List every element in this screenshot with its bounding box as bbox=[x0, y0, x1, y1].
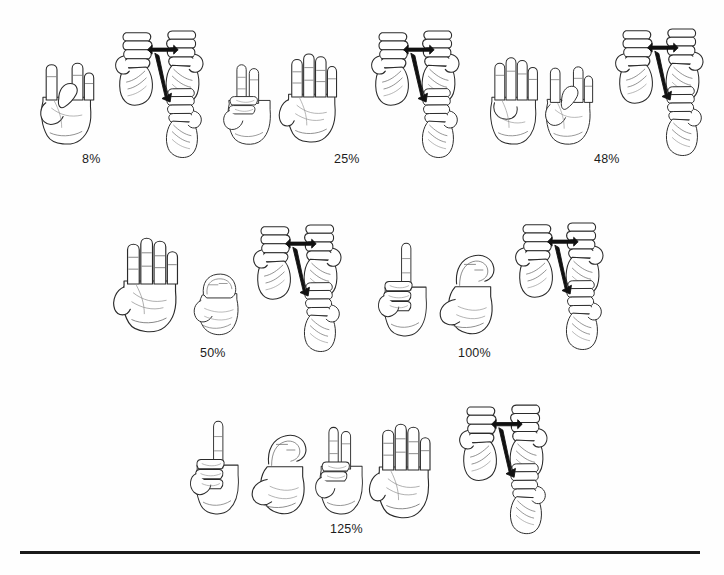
handshape-5 bbox=[366, 418, 440, 522]
illustration-page: 8%25%48%50%100%125% bbox=[0, 0, 724, 575]
page-bottom-rule bbox=[20, 551, 700, 554]
row-3: 125% bbox=[0, 0, 724, 575]
percent-sign-motion bbox=[452, 392, 560, 526]
caption-group-125-percent: 125% bbox=[330, 522, 363, 536]
handshape-2 bbox=[310, 420, 372, 518]
handshape-c-hundred bbox=[242, 422, 316, 520]
group-125-percent: 125% bbox=[0, 0, 724, 575]
handshape-1 bbox=[186, 418, 248, 518]
